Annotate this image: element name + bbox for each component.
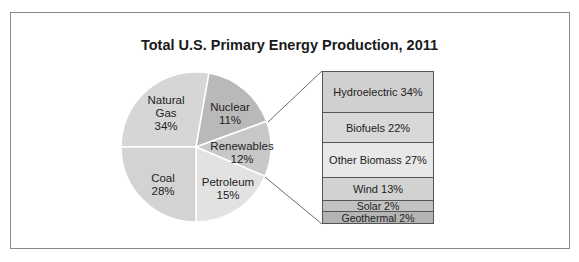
segment-biofuels: Biofuels 22% [322,113,434,143]
pie-chart [0,0,579,262]
segment-hydroelectric: Hydroelectric 34% [322,71,434,113]
segment-solar: Solar 2% [322,201,434,212]
label-natural-gas: NaturalGas34% [136,94,196,133]
segment-wind: Wind 13% [322,178,434,201]
label-renewables: Renewables12% [204,140,280,166]
label-nuclear: Nuclear11% [200,101,260,127]
segment-geothermal: Geothermal 2% [322,212,434,224]
label-petroleum: Petroleum15% [196,176,260,202]
connector-top [268,71,322,122]
segment-other-biomass: Other Biomass 27% [322,143,434,178]
label-coal: Coal28% [138,172,188,198]
connector-bottom [265,177,322,224]
